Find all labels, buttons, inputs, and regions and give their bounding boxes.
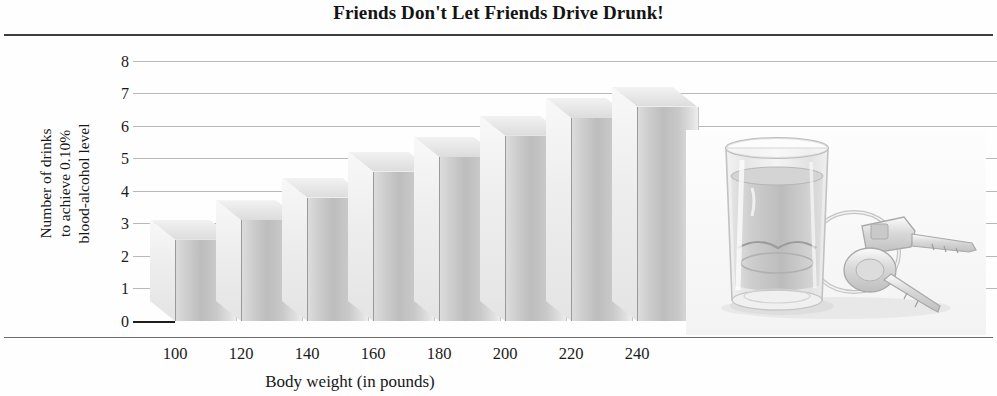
bar-side-face [546,98,571,321]
xtick-label-220: 220 [538,344,604,364]
xtick-label-200: 200 [472,344,538,364]
xtick-label-180: 180 [406,344,472,364]
bar-side-face [612,87,637,322]
gridline-8 [133,61,997,62]
bar-side-face [216,200,241,321]
shot-glass-and-keys-photo [686,130,986,335]
x-axis-label: Body weight (in pounds) [0,372,700,392]
figure: Friends Don't Let Friends Drive Drunk! 0… [0,0,997,396]
xtick-label-160: 160 [340,344,406,364]
gridline-0 [133,321,175,323]
gridline-7 [133,93,997,94]
ytick-label-0: 0 [103,314,129,330]
xtick-label-100: 100 [142,344,208,364]
chart-title: Friends Don't Let Friends Drive Drunk! [0,2,997,24]
ytick-label-2: 2 [103,249,129,265]
ytick-label-7: 7 [103,86,129,102]
ytick-label-8: 8 [103,54,129,70]
bar-side-face [282,178,307,322]
y-axis-label-line-2: to achieve 0.10% [55,74,74,294]
xtick-label-140: 140 [274,344,340,364]
bar-side-face [348,152,373,322]
xtick-label-240: 240 [604,344,670,364]
bar-side-face [480,116,505,321]
bar-240 [612,87,697,322]
bottom-axis-rule [4,337,993,338]
ytick-label-5: 5 [103,151,129,167]
bar-side-face [414,137,439,321]
y-axis-label: Number of drinks to achieve 0.10% blood-… [36,74,93,294]
ytick-label-1: 1 [103,281,129,297]
y-axis-label-line-1: Number of drinks [36,74,55,294]
y-axis-label-line-3: blood-alcohol level [74,74,93,294]
ytick-label-6: 6 [103,119,129,135]
ytick-label-3: 3 [103,216,129,232]
ytick-label-4: 4 [103,184,129,200]
xtick-label-120: 120 [208,344,274,364]
